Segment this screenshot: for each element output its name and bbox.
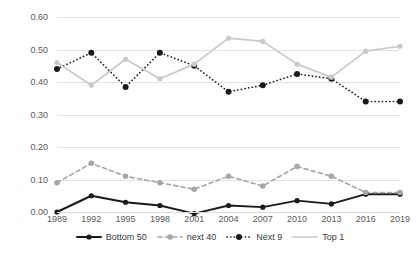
legend-swatch-dotted bbox=[226, 232, 252, 242]
series-top-1 bbox=[54, 36, 402, 88]
x-axis-tick-label: 1995 bbox=[116, 215, 136, 224]
data-point bbox=[363, 99, 369, 105]
data-point bbox=[260, 82, 266, 88]
x-axis-tick-label: 2001 bbox=[184, 215, 204, 224]
data-point bbox=[89, 193, 94, 198]
data-point bbox=[226, 173, 232, 179]
data-point bbox=[397, 44, 402, 49]
legend-item-next-9[interactable]: Next 9 bbox=[226, 232, 282, 242]
data-point bbox=[397, 190, 403, 196]
series-next-40 bbox=[54, 160, 403, 195]
data-point bbox=[157, 50, 163, 56]
data-point bbox=[54, 180, 60, 186]
legend-label: Top 1 bbox=[322, 233, 344, 242]
data-point bbox=[294, 164, 300, 170]
data-point bbox=[260, 205, 265, 210]
data-point bbox=[88, 50, 94, 56]
x-axis-tick-label: 2010 bbox=[287, 215, 307, 224]
series-layer bbox=[57, 17, 400, 212]
y-axis-tick-label: 0.40 bbox=[30, 78, 48, 87]
x-axis-tick-label: 2016 bbox=[356, 215, 376, 224]
data-point bbox=[363, 190, 369, 196]
legend-swatch-dashed bbox=[157, 232, 183, 242]
data-point bbox=[191, 186, 197, 192]
data-point bbox=[89, 83, 94, 88]
x-axis-tick-label: 2007 bbox=[253, 215, 273, 224]
data-point bbox=[54, 60, 59, 65]
y-axis-tick-label: 0.50 bbox=[30, 46, 48, 55]
x-axis-tick-label: 1989 bbox=[47, 215, 67, 224]
series-next-9 bbox=[54, 50, 403, 105]
data-point bbox=[123, 84, 129, 90]
x-axis: 1989199219951998200120042007201020132016… bbox=[57, 215, 400, 229]
chart-legend: Bottom 50next 40Next 9Top 1 bbox=[0, 232, 420, 242]
y-axis-tick-label: 0.20 bbox=[30, 143, 48, 152]
data-point bbox=[226, 203, 231, 208]
x-axis-tick-label: 2019 bbox=[390, 215, 410, 224]
data-point bbox=[295, 62, 300, 67]
data-point bbox=[260, 39, 265, 44]
legend-label: next 40 bbox=[187, 233, 217, 242]
x-axis-tick-label: 1992 bbox=[81, 215, 101, 224]
x-axis-tick-label: 2013 bbox=[321, 215, 341, 224]
x-axis-tick-label: 2004 bbox=[218, 215, 238, 224]
legend-label: Bottom 50 bbox=[106, 233, 147, 242]
data-point bbox=[295, 198, 300, 203]
data-point bbox=[260, 183, 266, 189]
data-point bbox=[329, 173, 335, 179]
data-point bbox=[226, 36, 231, 41]
data-point bbox=[123, 173, 129, 179]
data-point bbox=[89, 160, 95, 166]
series-line bbox=[57, 38, 400, 85]
y-axis-tick-label: 0.00 bbox=[30, 208, 48, 217]
legend-item-next-40[interactable]: next 40 bbox=[157, 232, 217, 242]
legend-swatch-solid bbox=[292, 232, 318, 242]
y-axis-tick-label: 0.60 bbox=[30, 13, 48, 22]
y-axis-tick-label: 0.10 bbox=[30, 176, 48, 185]
line-chart: 0.000.100.200.300.400.500.60 19891992199… bbox=[0, 0, 420, 257]
data-point bbox=[157, 180, 163, 186]
x-axis-tick-label: 1998 bbox=[150, 215, 170, 224]
legend-item-top-1[interactable]: Top 1 bbox=[292, 232, 344, 242]
y-axis-tick-label: 0.30 bbox=[30, 111, 48, 120]
data-point bbox=[192, 62, 197, 67]
data-point bbox=[329, 75, 334, 80]
data-point bbox=[54, 66, 60, 72]
y-axis: 0.000.100.200.300.400.500.60 bbox=[0, 0, 52, 257]
data-point bbox=[363, 49, 368, 54]
data-point bbox=[123, 200, 128, 205]
data-point bbox=[294, 71, 300, 77]
data-point bbox=[397, 99, 403, 105]
data-point bbox=[123, 57, 128, 62]
legend-label: Next 9 bbox=[256, 233, 282, 242]
data-point bbox=[157, 203, 162, 208]
legend-swatch-solid bbox=[76, 232, 102, 242]
plot-area bbox=[57, 17, 400, 212]
data-point bbox=[329, 201, 334, 206]
data-point bbox=[226, 89, 232, 95]
axis-baseline bbox=[57, 212, 400, 213]
data-point bbox=[157, 76, 162, 81]
legend-item-bottom-50[interactable]: Bottom 50 bbox=[76, 232, 147, 242]
